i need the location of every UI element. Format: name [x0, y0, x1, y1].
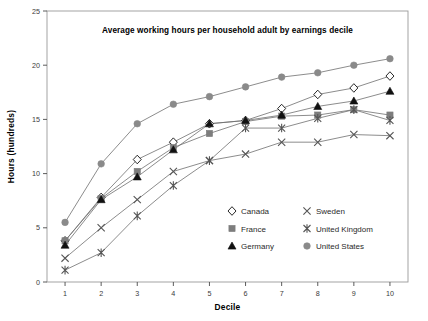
- data-point-united-states-decile-5: [206, 93, 213, 100]
- data-point-united-states-decile-9: [351, 62, 358, 69]
- data-point-france-decile-5: [206, 130, 212, 136]
- data-point-united-states-decile-4: [170, 101, 177, 108]
- x-axis-label: Decile: [215, 302, 241, 312]
- x-tick-label-3: 3: [135, 289, 139, 298]
- data-point-united-states-decile-2: [98, 161, 105, 168]
- x-tick-label-8: 8: [316, 289, 320, 298]
- x-tick-label-1: 1: [63, 289, 67, 298]
- data-point-united-states-decile-8: [314, 69, 321, 76]
- data-point-united-states-decile-1: [62, 219, 69, 226]
- legend-marker-united-states: [304, 243, 311, 250]
- legend-marker-france: [229, 225, 235, 231]
- legend-label-germany: Germany: [241, 242, 274, 251]
- data-point-united-states-decile-7: [278, 74, 285, 81]
- x-tick-label-4: 4: [171, 289, 175, 298]
- x-tick-label-2: 2: [99, 289, 103, 298]
- y-tick-label-25: 25: [32, 7, 40, 16]
- data-point-united-states-decile-6: [242, 84, 249, 91]
- y-tick-label-5: 5: [36, 223, 40, 232]
- legend-label-france: France: [241, 225, 266, 234]
- data-point-united-states-decile-3: [134, 120, 141, 127]
- legend-label-canada: Canada: [241, 207, 270, 216]
- y-tick-label-20: 20: [32, 61, 40, 70]
- y-tick-label-10: 10: [32, 169, 40, 178]
- x-tick-label-9: 9: [352, 289, 356, 298]
- x-tick-label-6: 6: [244, 289, 248, 298]
- y-axis-label: Hours (hundreds): [6, 110, 16, 183]
- chart-title: Average working hours per household adul…: [102, 26, 353, 35]
- y-tick-label-0: 0: [36, 278, 40, 287]
- line-chart-svg: 051015202512345678910Average working hou…: [0, 0, 428, 321]
- x-tick-label-10: 10: [386, 289, 394, 298]
- legend-label-united-states: United States: [316, 242, 364, 251]
- legend-label-united-kingdom: United Kingdom: [316, 225, 373, 234]
- chart-figure: 051015202512345678910Average working hou…: [0, 0, 428, 321]
- x-tick-label-7: 7: [280, 289, 284, 298]
- legend-label-sweden: Sweden: [316, 207, 345, 216]
- data-point-united-states-decile-10: [387, 55, 394, 62]
- x-tick-label-5: 5: [207, 289, 211, 298]
- y-tick-label-15: 15: [32, 115, 40, 124]
